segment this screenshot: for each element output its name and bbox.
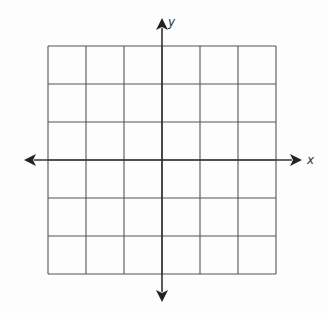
x-axis-label: x (306, 153, 315, 167)
y-axis-label: y (167, 15, 176, 29)
coordinate-plane: x y (0, 0, 327, 313)
axes (24, 18, 302, 302)
